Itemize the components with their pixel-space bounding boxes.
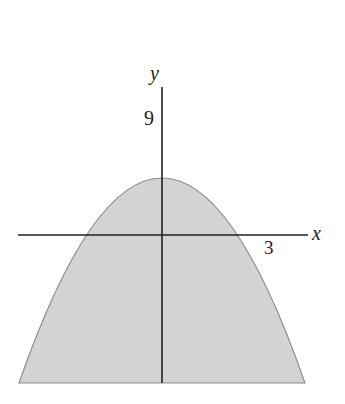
x-intercept-label: 3	[264, 237, 274, 258]
y-axis-label: y	[148, 62, 159, 85]
x-axis-label: x	[311, 222, 321, 244]
y-intercept-label: 9	[144, 107, 154, 129]
parabola-diagram: y x 9 3	[0, 0, 345, 404]
